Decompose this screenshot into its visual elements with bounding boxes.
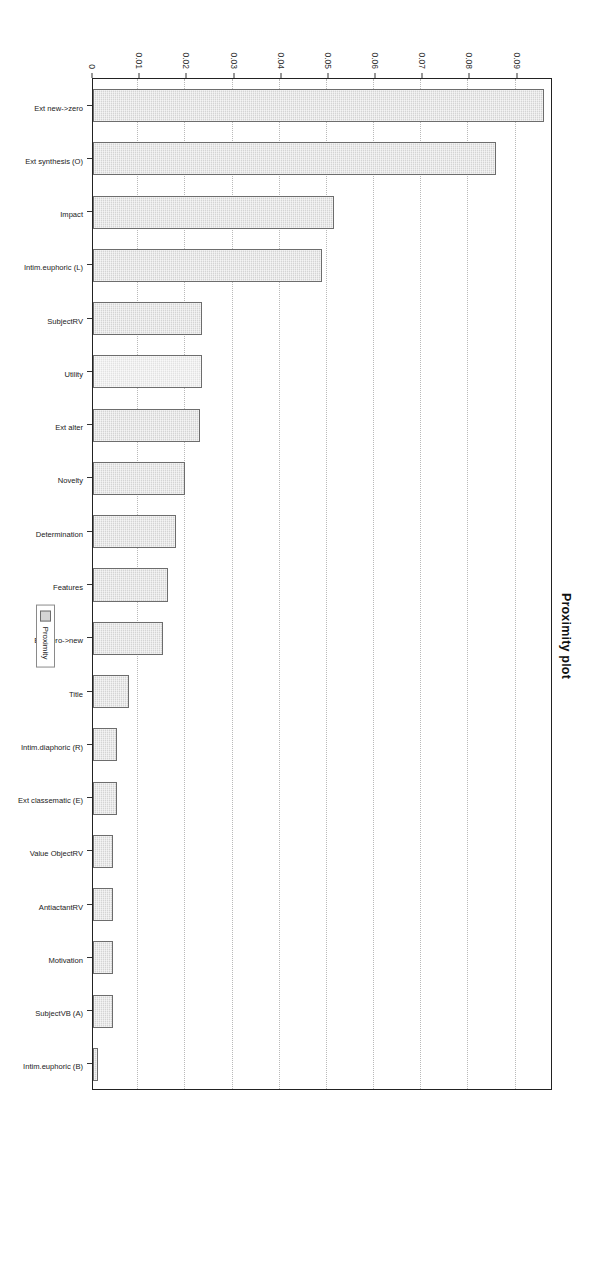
category-axis-tick-mark <box>87 744 92 745</box>
gridline <box>232 79 233 1089</box>
bar[interactable] <box>93 1048 98 1081</box>
category-axis-tick-mark <box>87 105 92 106</box>
bar[interactable] <box>93 622 163 655</box>
category-axis-tick-mark <box>87 424 92 425</box>
category-axis-label: AntiactantRV <box>39 902 83 911</box>
bar[interactable] <box>93 888 113 921</box>
plot-inner <box>93 79 551 1089</box>
legend-swatch-icon <box>40 611 51 622</box>
proximity-plot-figure: Proximity plot 00.010.020.030.040.050.06… <box>0 0 595 1272</box>
value-axis-tick-label: 0.04 <box>276 52 286 69</box>
bar[interactable] <box>93 196 334 229</box>
category-axis-tick-mark <box>87 850 92 851</box>
value-axis: 00.010.020.030.040.050.060.070.080.09 <box>92 0 552 78</box>
value-axis-tick-label: 0.07 <box>417 52 427 69</box>
bar[interactable] <box>93 462 185 495</box>
gridline <box>326 79 327 1089</box>
category-axis-label: Motivation <box>48 955 83 964</box>
category-axis-label: Intim.euphoric (L) <box>24 263 83 272</box>
figure-wrapper: Proximity plot 00.010.020.030.040.050.06… <box>0 0 595 1272</box>
gridline <box>373 79 374 1089</box>
value-axis-tick-label: 0 <box>87 64 97 69</box>
gridline <box>515 79 516 1089</box>
legend: Proximity <box>36 605 55 668</box>
category-axis-label: Ext synthesis (O) <box>25 156 83 165</box>
category-axis-label: Features <box>53 583 83 592</box>
category-axis-label: Intim.euphoric (B) <box>23 1062 83 1071</box>
bar[interactable] <box>93 302 202 335</box>
bar[interactable] <box>93 515 176 548</box>
category-axis-tick-mark <box>87 637 92 638</box>
category-axis-tick-mark <box>87 1063 92 1064</box>
category-axis-label: Value ObjectRV <box>30 849 83 858</box>
value-axis-tick-label: 0.08 <box>464 52 474 69</box>
bar[interactable] <box>93 835 113 868</box>
category-axis: Ext new->zeroExt synthesis (O)ImpactInti… <box>0 78 92 1090</box>
value-axis-tick-label: 0.05 <box>323 52 333 69</box>
category-axis-tick-mark <box>87 158 92 159</box>
category-axis-label: Utility <box>64 369 83 378</box>
category-axis-label: Intim.diaphoric (R) <box>21 742 83 751</box>
category-axis-tick-mark <box>87 318 92 319</box>
category-axis-tick-mark <box>87 477 92 478</box>
value-axis-tick-label: 0.06 <box>370 52 380 69</box>
bar[interactable] <box>93 409 200 442</box>
gridline <box>467 79 468 1089</box>
bar[interactable] <box>93 89 544 122</box>
legend-label: Proximity <box>42 627 50 660</box>
plot-area <box>92 78 552 1090</box>
value-axis-tick-label: 0.03 <box>229 52 239 69</box>
category-axis-label: Impact <box>60 210 83 219</box>
bar[interactable] <box>93 568 168 601</box>
bar[interactable] <box>93 941 113 974</box>
category-axis-tick-mark <box>87 584 92 585</box>
category-axis-tick-mark <box>87 797 92 798</box>
category-axis-tick-mark <box>87 531 92 532</box>
gridline <box>279 79 280 1089</box>
category-axis-tick-mark <box>87 957 92 958</box>
category-axis-label: Novelty <box>58 476 83 485</box>
value-axis-tick-label: 0.02 <box>181 52 191 69</box>
category-axis-label: SubjectVB (A) <box>35 1009 83 1018</box>
category-axis-tick-mark <box>87 371 92 372</box>
gridline <box>184 79 185 1089</box>
bar[interactable] <box>93 782 117 815</box>
category-axis-label: Ext classematic (E) <box>18 796 83 805</box>
bar[interactable] <box>93 355 202 388</box>
bar[interactable] <box>93 728 117 761</box>
category-axis-tick-mark <box>87 904 92 905</box>
value-axis-tick-label: 0.09 <box>512 52 522 69</box>
category-axis-tick-mark <box>87 691 92 692</box>
gridline <box>420 79 421 1089</box>
category-axis-tick-mark <box>87 264 92 265</box>
category-axis-label: Ext alter <box>55 423 83 432</box>
category-axis-label: Determination <box>36 529 83 538</box>
category-axis-tick-mark <box>87 211 92 212</box>
bar[interactable] <box>93 995 113 1028</box>
value-axis-tick-label: 0.01 <box>134 52 144 69</box>
page-title: Proximity plot <box>559 0 573 1272</box>
category-axis-label: Ext new->zero <box>34 103 83 112</box>
bar[interactable] <box>93 675 129 708</box>
bar[interactable] <box>93 249 322 282</box>
bar[interactable] <box>93 142 496 175</box>
category-axis-tick-mark <box>87 1010 92 1011</box>
category-axis-label: SubjectRV <box>47 316 83 325</box>
category-axis-label: Title <box>69 689 83 698</box>
